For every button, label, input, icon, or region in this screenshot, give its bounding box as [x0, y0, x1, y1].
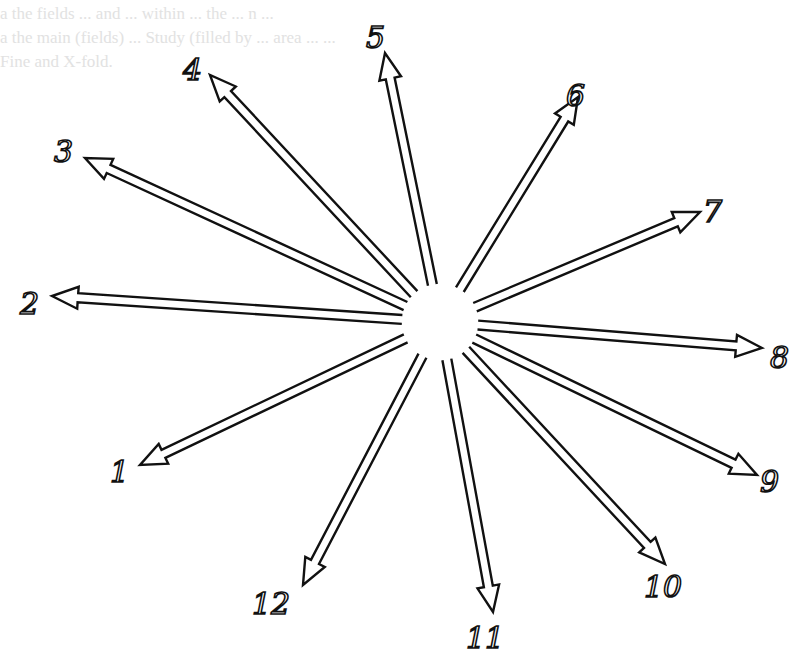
- arrow-label-5: 5: [366, 20, 385, 55]
- arrow-11: 11: [442, 359, 504, 655]
- arrow-shape-icon: [442, 359, 499, 612]
- arrow-label-9: 9: [760, 464, 779, 499]
- arrow-label-3: 3: [54, 134, 73, 169]
- arrow-shape-icon: [303, 354, 426, 585]
- arrow-label-6: 6: [566, 78, 585, 113]
- arrow-shape-icon: [379, 53, 436, 286]
- arrow-6: 6: [456, 78, 585, 292]
- arrow-shape-icon: [456, 97, 578, 292]
- arrow-label-7: 7: [703, 194, 723, 229]
- arrow-shape-icon: [140, 334, 408, 465]
- arrow-2: 2: [19, 286, 402, 324]
- arrow-shape-icon: [473, 212, 700, 311]
- arrow-label-2: 2: [19, 286, 39, 321]
- arrow-9: 9: [472, 335, 779, 500]
- arrow-label-12: 12: [252, 586, 290, 621]
- arrow-label-11: 11: [466, 620, 504, 655]
- arrow-shape-icon: [52, 287, 402, 324]
- arrow-label-4: 4: [182, 52, 202, 87]
- arrow-label-1: 1: [110, 454, 129, 489]
- arrow-shape-icon: [478, 321, 763, 357]
- radiating-arrows-diagram: 123456789101112: [0, 0, 805, 666]
- arrow-label-10: 10: [644, 569, 682, 604]
- arrow-label-8: 8: [770, 340, 789, 375]
